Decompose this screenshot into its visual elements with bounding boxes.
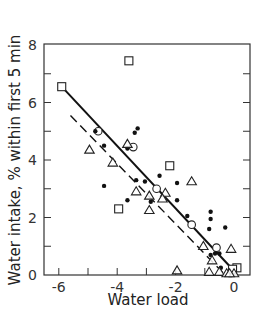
triangle-marker	[226, 244, 236, 252]
open-circle-marker	[213, 244, 221, 252]
filled-dot-marker	[134, 178, 138, 182]
filled-dot-marker	[175, 181, 179, 185]
plot-frame	[44, 44, 250, 275]
triangle-marker	[145, 191, 155, 199]
filled-dot-marker	[143, 179, 147, 183]
filled-dot-marker	[135, 126, 139, 130]
filled-dot-marker	[157, 174, 161, 178]
triangle-marker	[131, 187, 141, 195]
triangle-marker	[204, 267, 214, 275]
filled-dot-marker	[125, 198, 129, 202]
filled-dot-marker	[223, 225, 227, 229]
filled-dot-marker	[217, 251, 221, 255]
y-tick-label: 8	[28, 37, 37, 53]
x-axis-label: Water load	[107, 291, 188, 309]
filled-dot-marker	[149, 199, 153, 203]
filled-dot-marker	[207, 227, 211, 231]
filled-dot-marker	[102, 184, 106, 188]
triangle-marker	[85, 145, 95, 153]
triangle-marker	[187, 177, 197, 185]
y-tick-label: 2	[28, 210, 37, 226]
y-tick-label: 0	[28, 267, 37, 283]
y-tick-label: 6	[28, 95, 37, 111]
solid-fit-line	[62, 87, 233, 270]
square-marker	[125, 57, 133, 65]
square-marker	[166, 162, 174, 170]
scatter-chart: -6-4-2002468 Water load Water intake, % …	[0, 0, 263, 315]
filled-dot-marker	[213, 251, 217, 255]
y-tick-label: 4	[28, 152, 37, 168]
y-axis-label: Water intake, % within first 5 min	[6, 35, 24, 286]
filled-dot-marker	[208, 210, 212, 214]
filled-dot-marker	[133, 130, 137, 134]
triangle-marker	[172, 266, 182, 274]
filled-dot-marker	[185, 214, 189, 218]
triangle-marker	[145, 206, 155, 214]
triangle-marker	[123, 139, 133, 147]
regression-lines	[62, 87, 233, 274]
data-points	[58, 57, 241, 277]
square-marker	[58, 83, 66, 91]
filled-dot-marker	[102, 143, 106, 147]
x-tick-label: -6	[52, 279, 66, 295]
filled-dot-marker	[93, 129, 97, 133]
open-circle-marker	[153, 185, 161, 193]
triangle-marker	[108, 158, 118, 166]
triangle-marker	[207, 256, 217, 264]
square-marker	[115, 205, 123, 213]
x-tick-label: 0	[230, 279, 239, 295]
filled-dot-marker	[175, 198, 179, 202]
filled-dot-marker	[208, 217, 212, 221]
open-circle-marker	[188, 221, 196, 229]
